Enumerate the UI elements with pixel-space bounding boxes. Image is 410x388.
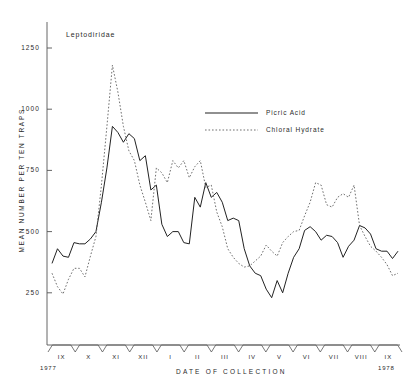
x-axis-start-year: 1977 [40, 365, 57, 371]
y-tick-1250: 1250 [6, 44, 40, 51]
series-line-picric-acid [52, 126, 398, 297]
legend-marks [205, 113, 258, 130]
x-axis-title: DATE OF COLLECTION [176, 368, 287, 375]
axes [47, 22, 402, 352]
chart-title: Leptodiridae [66, 31, 115, 38]
chart-svg [0, 0, 410, 388]
x-axis-end-year: 1978 [378, 365, 395, 371]
y-tick-500: 500 [6, 228, 40, 235]
chart-figure: Leptodiridae MEAN NUMBER PER TEN TRAPS 2… [0, 0, 410, 388]
data-series [52, 65, 398, 298]
legend-item-chloral-hydrate: Chloral Hydrate [266, 126, 325, 133]
y-tick-1000: 1000 [6, 105, 40, 112]
series-line-chloral-hydrate [52, 65, 398, 294]
x-month-IX: IX [365, 354, 410, 360]
plot-area [0, 0, 410, 388]
y-tick-750: 750 [6, 166, 40, 173]
legend-item-picric-acid: Picric Acid [266, 109, 306, 116]
y-tick-250: 250 [6, 289, 40, 296]
